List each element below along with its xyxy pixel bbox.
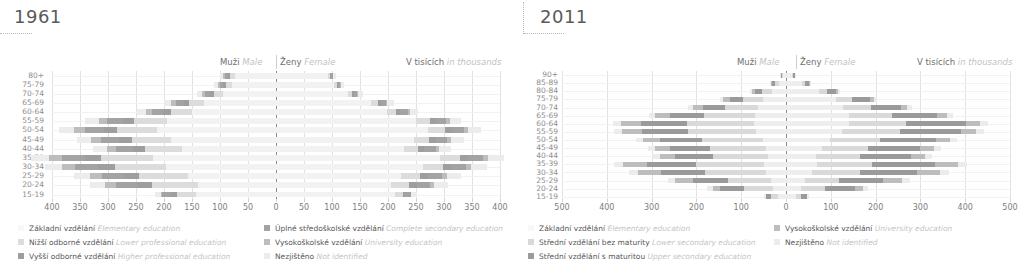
x-tick-label: 400 [44, 203, 59, 212]
legend-item[interactable]: Střední vzdělání s maturitou Upper secon… [528, 250, 774, 264]
legend-item[interactable]: Nižší odborné vzdělání Lower professiona… [18, 236, 264, 250]
plot-box [562, 71, 1010, 201]
bar-segment [621, 121, 641, 126]
bar-segment [132, 137, 171, 143]
legend-item[interactable]: Vyšší odborné vzdělání Higher profession… [18, 250, 264, 264]
bar-segment [819, 89, 827, 94]
age-group-label: 30-34 [22, 163, 44, 171]
bar-female [276, 73, 336, 79]
bar-segment [702, 138, 763, 143]
legend-label-en: University education [365, 238, 442, 247]
bar-segment [976, 129, 984, 134]
bar-row [52, 181, 500, 190]
x-tick-mark [786, 199, 787, 202]
bar-segment [934, 146, 941, 151]
x-tick-mark [332, 199, 333, 202]
bar-segment [137, 109, 147, 115]
bar-segment [940, 170, 949, 175]
bar-segment [961, 129, 976, 134]
legend-item[interactable]: Střední vzdělání bez maturity Lower seco… [528, 236, 774, 250]
legend-column-0: Základní vzdělání Elementary educationNi… [18, 222, 264, 264]
legend-label-en: Upper secondary education [648, 252, 752, 261]
bar-segment [705, 170, 766, 175]
legend-label-cz: Střední vzdělání s maturitou [539, 252, 648, 261]
bar-segment [660, 154, 675, 159]
bar-segment [232, 82, 276, 88]
bar-segment [863, 186, 868, 191]
legend-item[interactable]: Úplné středoškolské vzdělání Complete se… [264, 222, 510, 236]
bar-segment [754, 121, 786, 126]
bar-segment [647, 162, 695, 167]
bar-segment [74, 127, 85, 133]
bar-segment [771, 194, 778, 199]
x-tick-mark [360, 199, 361, 202]
bar-female [276, 164, 487, 170]
bar-male [31, 155, 276, 161]
legend-item[interactable]: Nezjištěno Not identified [774, 236, 1020, 250]
x-tick-mark [965, 199, 966, 202]
bar-male [85, 118, 276, 124]
bar-segment [755, 89, 762, 94]
panel-title: 2011 [540, 6, 588, 27]
bar-row [562, 103, 1010, 111]
bar-segment [925, 154, 932, 159]
age-group-label: 65-69 [22, 99, 44, 107]
bar-segment [827, 89, 836, 94]
legend-item[interactable]: Základní vzdělání Elementary education [18, 222, 264, 236]
bar-segment [177, 192, 196, 198]
bar-female [276, 127, 482, 133]
bar-segment [622, 129, 642, 134]
bar-segment [936, 138, 950, 143]
bar-segment [849, 121, 906, 126]
bar-segment [276, 173, 401, 179]
legend-item[interactable]: Vysokoškolské vzdělání University educat… [774, 222, 1020, 236]
bar-segment [636, 138, 643, 143]
age-group-label: 35-39 [536, 160, 558, 168]
x-tick-mark [652, 199, 653, 202]
legend-item[interactable]: Základní vzdělání Elementary education [528, 222, 774, 236]
bar-segment [137, 182, 152, 188]
bar-segment [116, 182, 136, 188]
legend-item[interactable]: Nezjištěno Not identified [264, 250, 510, 264]
bar-female [786, 121, 988, 126]
bar-male [77, 137, 276, 143]
x-tick-label: 100 [734, 203, 749, 212]
bar-row [52, 172, 500, 181]
plot-area-1961 [52, 71, 500, 199]
legend-label-cz: Vysokoškolské vzdělání [275, 238, 365, 247]
bar-segment [451, 164, 466, 170]
bar-segment [768, 154, 786, 159]
legend-label-cz: Úplné středoškolské vzdělání [275, 224, 386, 233]
bar-segment [102, 173, 123, 179]
population-pyramid-figure: 1961 Muži Male Ženy Female V tisících in… [0, 0, 1020, 269]
x-tick-label: 250 [128, 203, 143, 212]
bar-segment [443, 164, 451, 170]
bar-segment [786, 97, 836, 102]
bar-segment [655, 113, 670, 118]
legend-item[interactable]: Vysokoškolské vzdělání University educat… [264, 236, 510, 250]
bar-segment [410, 109, 418, 115]
bar-segment [188, 173, 276, 179]
bar-row [562, 128, 1010, 136]
bar-segment [786, 89, 819, 94]
bar-segment [166, 164, 276, 170]
x-tick-label: 150 [352, 203, 367, 212]
bar-segment [276, 192, 395, 198]
age-group-label: 25-29 [22, 172, 44, 180]
bar-segment [613, 121, 621, 126]
x-tick-label: 200 [689, 203, 704, 212]
bar-segment [155, 192, 162, 198]
bar-segment [99, 118, 108, 124]
age-group-label: 50-54 [22, 126, 44, 134]
bar-segment [756, 129, 786, 134]
bar-segment [176, 100, 184, 106]
bar-segment [812, 170, 860, 175]
bar-male [720, 97, 786, 102]
bar-male [214, 82, 276, 88]
bar-segment [779, 81, 786, 86]
bar-segment [468, 155, 483, 161]
bar-male [649, 113, 786, 118]
age-group-label: 55-59 [22, 117, 44, 125]
bar-male [707, 186, 786, 191]
bar-segment [855, 186, 863, 191]
